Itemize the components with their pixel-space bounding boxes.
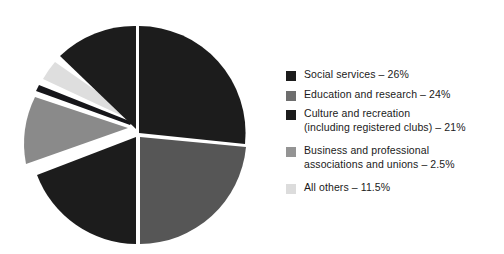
legend-label-social-services: Social services – 26% (304, 68, 409, 82)
legend-item-social-services[interactable]: Social services – 26% (286, 68, 504, 82)
pie-svg (0, 0, 280, 254)
legend-item-culture-and-recreation[interactable]: Culture and recreation (including regist… (286, 107, 504, 134)
legend-item-all-others[interactable]: All others – 11.5% (286, 181, 504, 195)
legend-swatch-social-services (286, 71, 296, 81)
legend-label-culture-and-recreation: Culture and recreation (including regist… (304, 107, 466, 134)
legend-swatch-all-others (286, 184, 296, 194)
legend-item-business-and-professional[interactable]: Business and professional associations a… (286, 144, 504, 171)
legend-label-all-others: All others – 11.5% (304, 181, 390, 195)
pie-chart-figure: Social services – 26% Education and rese… (0, 0, 504, 254)
legend-label-business-and-professional: Business and professional associations a… (304, 144, 455, 171)
legend-swatch-business-and-professional (286, 147, 296, 157)
pie-slice-social-services (139, 26, 246, 144)
legend-label-education-and-research: Education and research – 24% (304, 88, 450, 102)
pie-slice-education-and-research (140, 137, 246, 244)
legend-swatch-culture-and-recreation (286, 110, 296, 120)
legend-item-education-and-research[interactable]: Education and research – 24% (286, 88, 504, 102)
pie-chart-graphic (0, 0, 280, 254)
legend-swatch-education-and-research (286, 91, 296, 101)
chart-legend: Social services – 26% Education and rese… (286, 68, 504, 201)
